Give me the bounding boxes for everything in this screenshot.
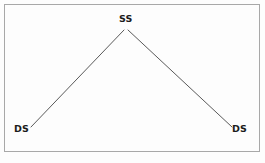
node-label-left-ds: DS	[14, 123, 29, 134]
diagram-canvas	[0, 0, 265, 163]
figure-root: SS DS DS	[0, 0, 265, 163]
edge-left-ascending-line	[31, 30, 124, 127]
node-label-apex-ss: SS	[119, 13, 133, 24]
node-label-right-ds: DS	[232, 123, 247, 134]
edge-right-descending-line	[128, 30, 232, 127]
